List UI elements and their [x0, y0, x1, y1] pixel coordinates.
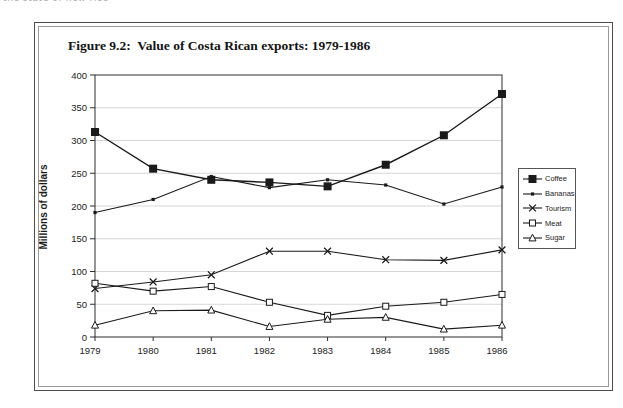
legend-item-sugar: Sugar — [523, 233, 575, 243]
marker-open-square — [208, 284, 214, 290]
marker-filled-square — [324, 182, 332, 190]
open-square-legend-icon — [523, 218, 543, 228]
y-tick-label: 200 — [71, 201, 87, 212]
x-tick-label: 1979 — [79, 345, 100, 356]
y-tick-label: 50 — [76, 299, 87, 310]
x-tick-label: 1980 — [138, 345, 159, 356]
chart-legend: CoffeeBananasTourismMeatSugar — [518, 168, 576, 249]
page-text-fragment-clip: the state of new rice — [3, 0, 233, 5]
marker-open-square — [530, 220, 536, 226]
marker-filled-square — [149, 165, 157, 173]
marker-small-dot — [152, 198, 155, 201]
marker-open-square — [150, 288, 156, 294]
legend-item-coffee: Coffee — [523, 174, 575, 184]
x-tick-label: 1983 — [312, 345, 333, 356]
marker-filled-square — [382, 161, 390, 169]
legend-label: Tourism — [545, 205, 571, 213]
series-line-bananas — [95, 177, 502, 213]
marker-small-dot — [442, 202, 445, 205]
y-axis-title: Millions of dollars — [38, 164, 49, 249]
x-tick-label: 1982 — [254, 345, 275, 356]
y-tick-label: 350 — [71, 102, 87, 113]
marker-open-triangle — [499, 321, 506, 328]
x-tick-label: 1984 — [370, 345, 391, 356]
legend-item-meat: Meat — [523, 218, 575, 228]
y-tick-label: 100 — [71, 266, 87, 277]
legend-label: Coffee — [545, 175, 567, 183]
y-tick-label: 250 — [71, 168, 87, 179]
legend-label: Meat — [545, 220, 562, 228]
legend-label: Bananas — [545, 190, 575, 198]
legend-item-bananas: Bananas — [523, 189, 575, 199]
marker-open-square — [383, 303, 389, 309]
marker-filled-square — [91, 128, 99, 136]
marker-small-dot — [268, 186, 271, 189]
figure-frame: Figure 9.2: Value of Costa Rican exports… — [34, 22, 613, 391]
marker-filled-square — [529, 175, 537, 183]
marker-small-dot — [210, 175, 213, 178]
x-legend-icon — [523, 203, 543, 213]
marker-small-dot — [531, 192, 534, 195]
marker-open-square — [499, 291, 505, 297]
marker-filled-square — [498, 90, 506, 98]
marker-open-square — [92, 280, 98, 286]
x-tick-label: 1981 — [196, 345, 217, 356]
x-tick-label: 1985 — [428, 345, 449, 356]
marker-filled-square — [440, 131, 448, 139]
marker-small-dot — [384, 183, 387, 186]
y-tick-label: 150 — [71, 233, 87, 244]
legend-item-tourism: Tourism — [523, 203, 575, 213]
marker-open-square — [441, 299, 447, 305]
series-line-tourism — [95, 250, 502, 289]
x-tick-label: 1986 — [486, 345, 507, 356]
marker-small-dot — [93, 211, 96, 214]
page-text-fragment: the state of new rice — [3, 0, 233, 3]
open-triangle-legend-icon — [523, 233, 543, 243]
exports-line-chart: 0501001502002503003504001979198019811982… — [36, 63, 536, 375]
y-tick-label: 0 — [82, 332, 87, 343]
y-tick-label: 300 — [71, 135, 87, 146]
figure-title: Figure 9.2: Value of Costa Rican exports… — [68, 38, 370, 54]
y-tick-label: 400 — [71, 70, 87, 81]
legend-label: Sugar — [545, 234, 565, 242]
marker-small-dot — [326, 178, 329, 181]
marker-filled-square — [265, 178, 273, 186]
marker-open-square — [266, 299, 272, 305]
filled-square-legend-icon — [523, 174, 543, 184]
marker-small-dot — [500, 185, 503, 188]
small-dot-legend-icon — [523, 189, 543, 199]
